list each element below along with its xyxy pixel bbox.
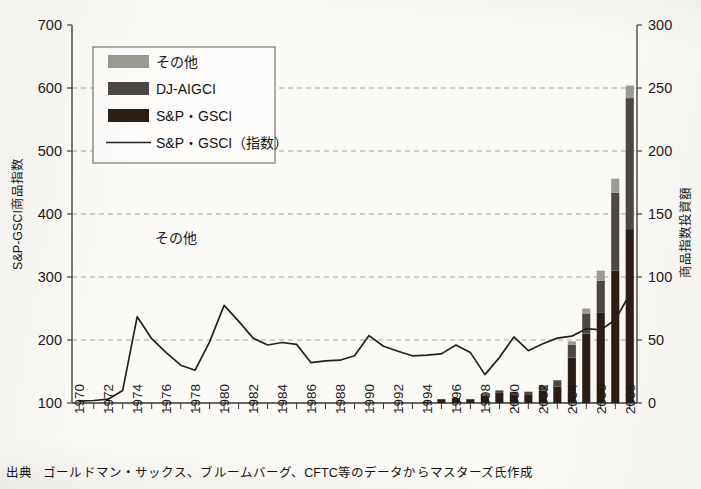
bar-segment (597, 281, 605, 313)
source-label: 出典 (6, 466, 32, 480)
legend-label: S&P・GSCI (156, 108, 232, 124)
stacked-bars (423, 86, 634, 404)
bar-segment (568, 345, 576, 358)
bar-segment (553, 387, 561, 403)
year-label: 1988 (333, 384, 348, 414)
year-label: 2006 (594, 384, 609, 414)
right-tick-label: 100 (648, 269, 672, 285)
legend-label: S&P・GSCI（指数） (156, 135, 288, 151)
bar-segment (626, 86, 634, 99)
bar-segment (611, 179, 619, 193)
year-label: 1994 (420, 383, 435, 414)
bar-segment (524, 392, 532, 395)
bar-segment (553, 380, 561, 386)
year-label: 1996 (449, 384, 464, 414)
year-label: 1992 (391, 384, 406, 414)
legend-label: その他 (156, 54, 198, 70)
year-label: 2000 (507, 384, 522, 414)
bar-segment (466, 399, 474, 403)
left-tick-label: 100 (38, 395, 62, 411)
year-label: 1978 (188, 384, 203, 414)
year-label: 1974 (130, 383, 145, 414)
right-tick-label: 250 (648, 80, 672, 96)
right-tick-label: 200 (648, 143, 672, 159)
bar-segment (611, 271, 619, 403)
year-label: 2002 (536, 384, 551, 414)
year-label: 2008 (623, 384, 638, 414)
year-label: 1972 (101, 384, 116, 414)
left-tick-label: 200 (38, 332, 62, 348)
year-label: 1990 (362, 384, 377, 414)
axis-titles: S&P-GSCI商品指数商品指数投資額 (10, 158, 693, 277)
legend-swatch (108, 82, 149, 95)
left-tick-label: 400 (38, 206, 62, 222)
bar-segment (437, 399, 445, 403)
year-label: 2004 (565, 383, 580, 414)
bar-segment (582, 309, 590, 314)
bar-segment (582, 334, 590, 403)
plot-annotation-text: その他 (155, 230, 197, 246)
left-axis-title: S&P-GSCI商品指数 (10, 158, 25, 270)
commodity-index-chart: 100200300400500600700 050100150200250300… (0, 0, 701, 489)
bar-segment (568, 341, 576, 345)
left-axis-tick-labels: 100200300400500600700 (38, 17, 62, 411)
year-label: 1998 (478, 384, 493, 414)
right-tick-label: 300 (648, 17, 672, 33)
right-axis-tick-labels: 050100150200250300 (648, 17, 672, 411)
year-label: 1982 (246, 384, 261, 414)
bar-segment (626, 98, 634, 229)
figure-container: 100200300400500600700 050100150200250300… (0, 0, 701, 489)
left-tick-label: 300 (38, 269, 62, 285)
bar-segment (495, 393, 503, 403)
year-label: 1976 (159, 384, 174, 414)
source-text: ゴールドマン・サックス、ブルームバーグ、CFTC等のデータからマスターズ氏作成 (43, 466, 533, 480)
year-label: 1986 (304, 384, 319, 414)
chart-legend: その他DJ-AIGCIS&P・GSCIS&P・GSCI（指数） (93, 47, 288, 163)
bar-segment (611, 193, 619, 271)
bar-segment (597, 271, 605, 281)
bar-segment (495, 390, 503, 393)
year-label: 1980 (217, 384, 232, 414)
legend-swatch (108, 109, 149, 122)
bar-segment (626, 229, 634, 403)
legend-label: DJ-AIGCI (156, 81, 216, 97)
legend-swatch (108, 55, 149, 68)
left-tick-label: 600 (38, 80, 62, 96)
x-axis-year-labels: 1970197219741976197819801982198419861988… (72, 383, 638, 414)
right-tick-label: 150 (648, 206, 672, 222)
year-label: 1984 (275, 383, 290, 414)
left-tick-label: 700 (38, 17, 62, 33)
year-label: 1970 (72, 384, 87, 414)
right-tick-label: 50 (648, 332, 664, 348)
left-tick-label: 500 (38, 143, 62, 159)
plot-annotation: その他 (155, 230, 197, 246)
right-tick-label: 0 (648, 395, 656, 411)
right-axis-title: 商品指数投資額 (678, 187, 693, 278)
source-caption: 出典ゴールドマン・サックス、ブルームバーグ、CFTC等のデータからマスターズ氏作… (6, 462, 533, 481)
bar-segment (524, 394, 532, 403)
